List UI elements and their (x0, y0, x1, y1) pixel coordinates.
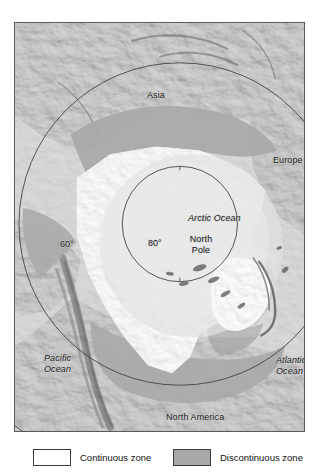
legend-swatch-continuous-zone (33, 449, 71, 466)
arctic-permafrost-map: Asia Europe Arctic Ocean NorthPole 80° 6… (14, 22, 305, 432)
legend-label-discontinuous-zone: Discontinuous zone (220, 452, 303, 463)
legend-item-continuous-zone: Continuous zone (33, 448, 151, 466)
legend-label-continuous-zone: Continuous zone (80, 452, 151, 463)
map-legend: Continuous zone Discontinuous zone (0, 447, 319, 469)
legend-item-discontinuous-zone: Discontinuous zone (173, 448, 303, 466)
map-frame: Asia Europe Arctic Ocean NorthPole 80° 6… (14, 22, 305, 432)
legend-swatch-discontinuous-zone (173, 449, 211, 466)
map-graphic (15, 23, 304, 431)
